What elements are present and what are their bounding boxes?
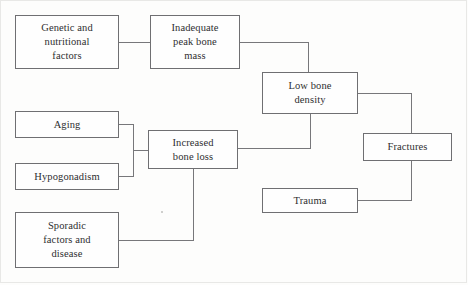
- node-label-increased-bone-loss: Increased bone loss: [172, 136, 213, 164]
- node-fractures[interactable]: Fractures: [363, 133, 452, 161]
- page-speck: [161, 211, 163, 213]
- edge-hypogonadism-to-junction: [119, 150, 133, 176]
- edge-trauma-to-fractures: [358, 161, 411, 200]
- node-sporadic-factors-and-disease[interactable]: Sporadic factors and disease: [15, 212, 119, 268]
- edge-lowbone-to-fractures: [358, 93, 411, 133]
- node-trauma[interactable]: Trauma: [262, 188, 358, 213]
- flowchart-canvas: Genetic and nutritional factorsInadequat…: [0, 0, 468, 285]
- node-genetic-nutritional-factors[interactable]: Genetic and nutritional factors: [15, 15, 119, 69]
- node-label-low-bone-density: Low bone density: [288, 79, 331, 107]
- node-inadequate-peak-bone-mass[interactable]: Inadequate peak bone mass: [150, 15, 240, 69]
- edge-sporadic-to-increasedloss: [119, 169, 193, 240]
- node-label-hypogonadism: Hypogonadism: [34, 170, 99, 184]
- edge-increasedloss-to-lowbone: [238, 114, 310, 148]
- node-low-bone-density[interactable]: Low bone density: [262, 72, 358, 114]
- edge-aging-to-junction: [119, 124, 148, 150]
- node-label-sporadic-factors-and-disease: Sporadic factors and disease: [43, 219, 90, 261]
- node-aging[interactable]: Aging: [15, 111, 119, 138]
- node-hypogonadism[interactable]: Hypogonadism: [15, 163, 119, 190]
- node-label-inadequate-peak-bone-mass: Inadequate peak bone mass: [171, 21, 218, 63]
- node-label-trauma: Trauma: [294, 194, 327, 208]
- node-label-genetic-nutritional-factors: Genetic and nutritional factors: [41, 21, 93, 63]
- node-increased-bone-loss[interactable]: Increased bone loss: [148, 130, 238, 169]
- node-label-aging: Aging: [54, 118, 81, 132]
- node-label-fractures: Fractures: [388, 140, 428, 154]
- edge-inadequate-to-lowbone: [240, 42, 308, 72]
